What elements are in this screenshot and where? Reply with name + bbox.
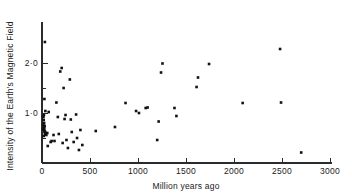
data-point — [94, 130, 97, 133]
data-point — [197, 76, 200, 79]
data-point — [300, 151, 303, 154]
data-point — [58, 133, 61, 136]
data-point — [44, 41, 47, 44]
x-tick-label: 1500 — [176, 166, 196, 176]
data-point — [76, 137, 79, 140]
data-point — [50, 140, 53, 143]
y-axis-title: Intensity of the Earth's Magnetic Field — [5, 21, 15, 170]
data-points — [42, 41, 303, 154]
data-point — [44, 110, 47, 113]
data-point — [46, 132, 49, 135]
x-axis-title: Million years ago — [152, 181, 219, 191]
data-point — [78, 149, 81, 152]
data-point — [160, 71, 163, 74]
data-point — [241, 102, 244, 105]
data-point — [63, 118, 66, 121]
data-point — [42, 119, 45, 122]
data-point — [70, 118, 73, 121]
data-point — [43, 98, 46, 101]
data-point — [42, 135, 45, 138]
data-point — [59, 70, 62, 73]
data-point — [161, 62, 164, 65]
data-point — [156, 139, 159, 142]
data-point — [146, 106, 149, 109]
chart-figure: 0500100015002000250030001·02·0 Million y… — [0, 0, 352, 195]
data-point — [70, 131, 73, 134]
x-tick-label: 2500 — [272, 166, 292, 176]
data-point — [67, 147, 70, 150]
data-point — [55, 101, 58, 104]
x-tick-label: 3000 — [320, 166, 340, 176]
y-tick-label: 1·0 — [25, 108, 38, 118]
data-point — [69, 78, 72, 81]
x-tick-label: 1000 — [128, 166, 148, 176]
data-point — [79, 129, 82, 132]
data-point — [65, 139, 68, 142]
data-point — [114, 126, 117, 129]
data-point — [75, 113, 78, 116]
data-point — [57, 116, 60, 119]
data-point — [280, 101, 283, 104]
data-point — [124, 102, 127, 105]
data-point — [60, 67, 63, 70]
axis-ticks — [42, 63, 330, 163]
scatter-plot: 0500100015002000250030001·02·0 Million y… — [0, 0, 352, 195]
data-point — [138, 112, 141, 115]
data-point — [135, 110, 138, 113]
x-tick-label: 2000 — [224, 166, 244, 176]
data-point — [173, 107, 176, 110]
data-point — [279, 48, 282, 51]
data-point — [195, 86, 198, 89]
axis-tick-labels: 0500100015002000250030001·02·0 — [25, 58, 340, 176]
data-point — [53, 140, 56, 143]
data-point — [62, 87, 65, 90]
data-point — [47, 111, 50, 114]
data-point — [81, 144, 84, 147]
x-tick-label: 500 — [82, 166, 97, 176]
data-point — [175, 115, 178, 118]
data-point — [72, 141, 75, 144]
data-point — [52, 134, 55, 137]
y-tick-label: 2·0 — [25, 58, 38, 68]
data-point — [157, 120, 160, 123]
data-point — [46, 145, 49, 148]
data-point — [61, 142, 64, 145]
data-point — [64, 114, 67, 117]
data-point — [208, 63, 211, 66]
x-tick-label: 0 — [39, 166, 44, 176]
data-point — [42, 116, 45, 119]
axes — [42, 22, 332, 163]
